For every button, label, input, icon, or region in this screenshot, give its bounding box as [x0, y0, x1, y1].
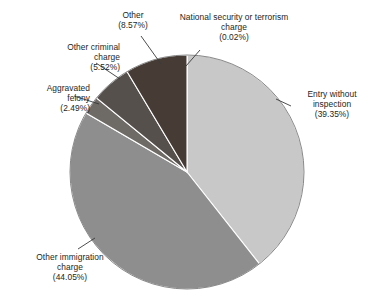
- slice-label-other-criminal-percent: (5.52%): [28, 62, 120, 72]
- leader-line-other-immigration: [78, 238, 95, 249]
- slice-label-other: Other (8.57%): [106, 10, 160, 30]
- slice-label-other-criminal-line2: charge: [28, 52, 120, 62]
- slice-label-entry-without-inspection: Entry without inspection (39.35%): [292, 89, 372, 120]
- slice-label-other-criminal-charge: Other criminal charge (5.52%): [28, 42, 120, 73]
- slice-label-aggravated-felony-percent: (2.49%): [12, 103, 90, 113]
- slice-label-other-immigration-percent: (44.05%): [14, 272, 126, 282]
- slice-label-entry-line1: Entry without: [307, 89, 356, 99]
- slice-label-other-percent: (8.57%): [106, 20, 160, 30]
- pie-chart: Other (8.57%) National security or terro…: [0, 0, 375, 299]
- slice-label-entry-line2: inspection: [292, 99, 372, 109]
- slice-label-aggravated-felony-line2: felony: [12, 93, 90, 103]
- slice-label-other-immigration-line2: charge: [14, 262, 126, 272]
- slice-label-entry-percent: (39.35%): [292, 109, 372, 119]
- slice-label-other-criminal-line1: Other criminal: [67, 42, 120, 52]
- slice-label-other-immigration-line1: Other immigration: [36, 252, 103, 262]
- slice-label-other-text: Other: [122, 10, 143, 20]
- slice-label-national-security-line1: National security or terrorism: [180, 12, 289, 22]
- slice-label-national-security-line2: charge: [170, 22, 298, 32]
- slice-label-national-security-percent: (0.02%): [170, 32, 298, 42]
- slice-label-national-security-or-terrorism-charge: National security or terrorism charge (0…: [170, 12, 298, 43]
- slice-label-aggravated-felony: Aggravated felony (2.49%): [12, 83, 90, 114]
- slice-label-aggravated-felony-line1: Aggravated: [47, 83, 90, 93]
- slice-label-other-immigration-charge: Other immigration charge (44.05%): [14, 252, 126, 283]
- leader-line-other: [141, 36, 161, 64]
